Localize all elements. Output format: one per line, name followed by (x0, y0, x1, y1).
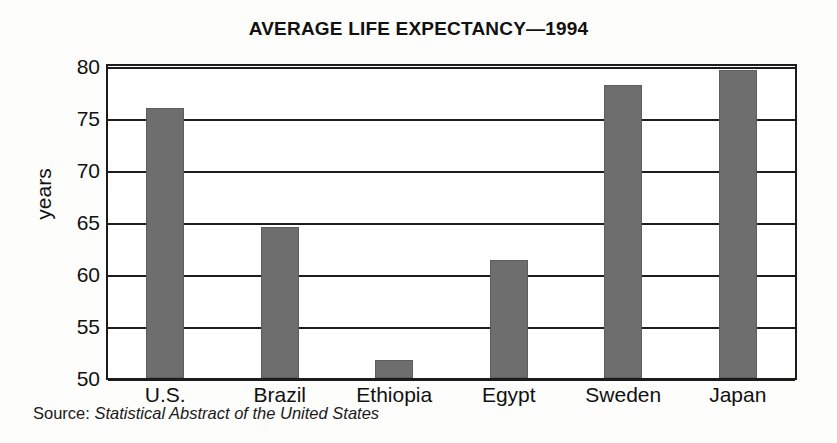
source-note: Source: Statistical Abstract of the Unit… (33, 404, 379, 423)
y-axis-tick: 75 (44, 107, 100, 131)
source-label: Source: (33, 404, 90, 422)
bar (375, 360, 413, 378)
y-axis-tick: 80 (44, 55, 100, 79)
x-axis-tick: Egypt (482, 383, 536, 407)
source-title: Statistical Abstract of the United State… (94, 404, 379, 422)
bar (146, 108, 184, 378)
x-axis-tick: Sweden (585, 383, 661, 407)
bar (490, 260, 528, 378)
bar-series (108, 66, 795, 378)
bar (604, 85, 642, 378)
chart-page: AVERAGE LIFE EXPECTANCY—1994 years 50556… (0, 0, 837, 443)
y-axis-tick: 70 (44, 159, 100, 183)
bar (261, 227, 299, 378)
y-axis-tick: 60 (44, 263, 100, 287)
y-axis-tick: 50 (44, 367, 100, 391)
y-axis-tick: 65 (44, 211, 100, 235)
y-axis-tick: 55 (44, 315, 100, 339)
chart-title: AVERAGE LIFE EXPECTANCY—1994 (0, 18, 837, 40)
x-axis-tick: Japan (709, 383, 766, 407)
gridline (108, 379, 795, 381)
bar (719, 70, 757, 378)
y-axis-tick-labels: 50556065707580 (38, 64, 100, 380)
